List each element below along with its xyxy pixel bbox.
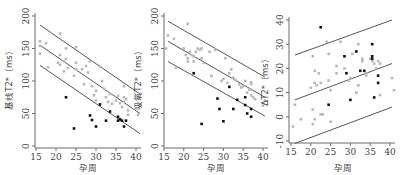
data-point-normal: [373, 62, 376, 65]
data-point-abnormal: [192, 72, 195, 75]
data-point-normal: [311, 123, 314, 126]
data-point-abnormal: [349, 99, 352, 102]
data-point-normal: [313, 70, 316, 73]
data-point-normal: [329, 120, 332, 123]
data-point-abnormal: [319, 26, 322, 29]
x-tick-label: 40: [257, 152, 269, 162]
data-point-normal: [107, 101, 110, 104]
data-point-abnormal: [377, 82, 380, 85]
data-point-abnormal: [371, 57, 374, 60]
data-point-normal: [192, 55, 195, 58]
data-point-normal: [224, 57, 227, 60]
data-point-normal: [208, 50, 211, 53]
data-point-normal: [244, 80, 247, 83]
data-point-normal: [202, 62, 205, 65]
data-point-normal: [319, 82, 322, 85]
data-point-normal: [123, 85, 126, 88]
data-point-normal: [317, 72, 320, 75]
y-tick-label: 150: [150, 40, 160, 57]
data-point-abnormal: [244, 96, 247, 99]
data-point-normal: [343, 67, 346, 70]
y-axis-label: ΔT2*（ms）: [260, 54, 270, 105]
data-point-normal: [103, 88, 106, 91]
data-point-abnormal: [125, 119, 128, 122]
y-tick-label: 150: [21, 40, 31, 57]
data-point-normal: [347, 79, 350, 82]
y-tick-label: 0: [150, 143, 160, 149]
data-point-normal: [365, 74, 368, 77]
data-point-normal: [39, 40, 42, 43]
data-point-normal: [109, 93, 112, 96]
data-point-normal: [87, 71, 90, 74]
data-point-normal: [311, 108, 314, 111]
data-point-normal: [375, 67, 378, 70]
data-point-normal: [242, 85, 245, 88]
y-tick-label: 50: [21, 108, 31, 120]
data-point-normal: [379, 94, 382, 97]
data-point-abnormal: [377, 74, 380, 77]
data-point-normal: [65, 58, 68, 61]
data-point-normal: [81, 68, 84, 71]
data-point-normal: [200, 57, 203, 60]
y-tick-label: 0: [275, 114, 285, 120]
data-point-abnormal: [121, 119, 124, 122]
data-point-normal: [234, 78, 237, 81]
x-tick-label: 20: [178, 152, 190, 162]
data-point-normal: [339, 40, 342, 43]
data-point-normal: [254, 98, 257, 101]
data-point-normal: [91, 85, 94, 88]
data-point-normal: [311, 55, 314, 58]
data-point-normal: [377, 60, 380, 63]
data-point-normal: [59, 54, 62, 57]
data-point-abnormal: [65, 96, 68, 99]
data-point-abnormal: [359, 70, 362, 73]
x-tick-label: 35: [237, 152, 249, 162]
data-point-abnormal: [355, 50, 358, 53]
data-point-abnormal: [218, 108, 221, 111]
data-point-normal: [115, 99, 118, 102]
data-point-normal: [222, 78, 225, 81]
y-tick-label: 10: [275, 87, 285, 99]
data-point-normal: [75, 62, 78, 65]
data-point-normal: [329, 89, 332, 92]
data-point-normal: [39, 45, 42, 48]
regression-line-fit: [40, 45, 140, 113]
y-tick-label: 30: [275, 38, 285, 50]
data-point-normal: [67, 67, 70, 70]
y-tick-label: 100: [21, 72, 31, 89]
data-point-normal: [321, 113, 324, 116]
x-tick-label: 30: [218, 152, 230, 162]
data-point-abnormal: [109, 110, 112, 113]
data-point-normal: [327, 79, 330, 82]
x-tick-label: 15: [285, 147, 297, 157]
data-point-abnormal: [89, 114, 92, 117]
data-point-normal: [325, 40, 328, 43]
data-point-normal: [95, 89, 98, 92]
regression-line-upper: [295, 20, 392, 55]
data-point-normal: [310, 86, 313, 89]
data-point-normal: [194, 50, 197, 53]
data-point-normal: [250, 83, 253, 86]
data-point-abnormal: [244, 104, 247, 107]
data-point-abnormal: [105, 119, 108, 122]
data-point-normal: [59, 32, 62, 35]
data-point-abnormal: [99, 103, 102, 106]
x-tick-label: 40: [384, 147, 396, 157]
data-point-normal: [175, 67, 178, 70]
data-point-normal: [73, 75, 76, 78]
x-tick-label: 15: [30, 152, 42, 162]
data-point-normal: [184, 54, 187, 57]
data-point-normal: [183, 47, 186, 50]
data-point-normal: [137, 114, 140, 117]
x-axis-label: 孕周: [79, 163, 97, 173]
y-tick-label: 100: [150, 72, 160, 89]
x-tick-label: 30: [345, 147, 357, 157]
data-point-normal: [65, 47, 68, 50]
y-axis-label: 基线T2*（ms）: [4, 46, 14, 110]
data-point-normal: [355, 91, 358, 94]
data-point-normal: [393, 89, 396, 92]
data-point-abnormal: [373, 96, 376, 99]
figure-three-scatter-panels: 050100150200152025303540孕周基线T2*（ms） 0501…: [0, 0, 412, 175]
data-point-normal: [39, 52, 42, 55]
y-axis-label: 吸氧T2*（ms）: [133, 46, 143, 110]
